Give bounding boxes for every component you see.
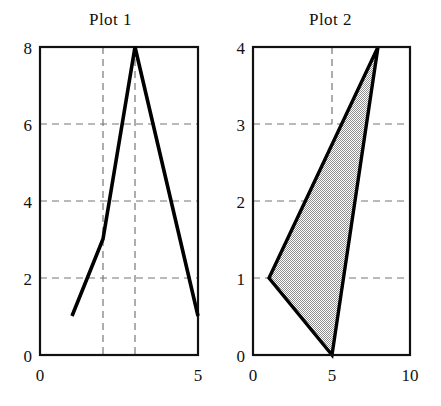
- plot-1-ytick-0: 0: [24, 347, 33, 366]
- plot-1-ytick-6: 6: [24, 116, 33, 135]
- plot-1-ytick-4: 4: [24, 193, 33, 212]
- plot-2-xtick-10: 10: [402, 366, 419, 385]
- plot-2-ytick-3: 3: [237, 116, 246, 135]
- figure-canvas: Plot 1: [0, 0, 441, 406]
- plot-1-ytick-2: 2: [24, 270, 33, 289]
- plot-2-xtick-0: 0: [249, 366, 258, 385]
- plot-2-xtick-5: 5: [328, 366, 337, 385]
- plot-1-svg: 8 6 4 2 0 0 5: [0, 0, 221, 406]
- plot-2-svg: 4 3 2 1 0 0 5 10: [220, 0, 441, 406]
- plot-1-ytick-8: 8: [24, 39, 33, 58]
- plot-2-ytick-1: 1: [237, 270, 246, 289]
- plot-panel-1: Plot 1: [0, 0, 221, 406]
- plot-1-xtick-5: 5: [194, 366, 203, 385]
- plot-2-ytick-4: 4: [237, 39, 246, 58]
- plot-1-xtick-0: 0: [36, 366, 45, 385]
- plot-panel-2: Plot 2: [220, 0, 441, 406]
- plot-2-ytick-0: 0: [237, 347, 246, 366]
- plot-2-ytick-2: 2: [237, 193, 246, 212]
